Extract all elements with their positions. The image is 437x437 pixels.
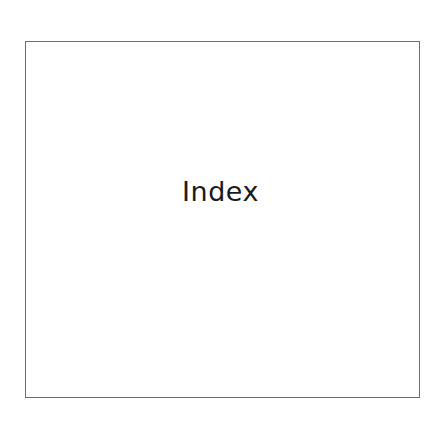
page-title: Index (0, 176, 437, 207)
index-frame (25, 41, 420, 398)
